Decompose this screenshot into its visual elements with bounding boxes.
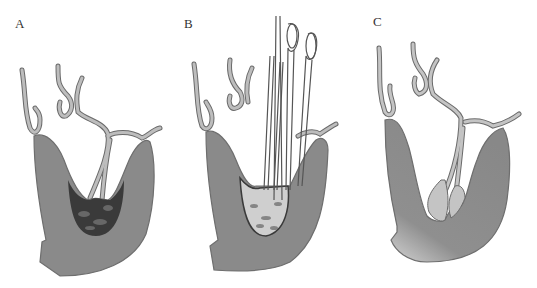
- organ-illustration-a: [0, 0, 180, 288]
- panel-a: A: [0, 0, 180, 288]
- panel-c: C: [357, 0, 537, 288]
- flared-duct-end: [428, 180, 448, 221]
- organ-illustration-c: [357, 0, 537, 288]
- probe-icon: [264, 56, 274, 190]
- panel-b: B: [170, 0, 350, 288]
- loop-clamp-ring: [287, 24, 297, 48]
- loop-clamp-icon: [286, 24, 299, 190]
- organ-illustration-b: [170, 0, 350, 288]
- loop-clamp-ring: [306, 33, 316, 59]
